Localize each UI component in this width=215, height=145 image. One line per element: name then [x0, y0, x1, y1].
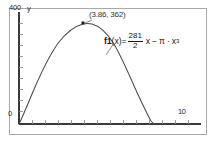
equation-fraction-denominator: 2 [132, 42, 138, 51]
equation-equals-sign: = [122, 36, 127, 46]
function-equation[interactable]: f1 (x) = 281 2 x − π · x 3 [104, 32, 179, 50]
equation-fraction: 281 2 [128, 32, 143, 50]
graph-screenshot: 400 y 0 10 (3.86, 362) f1 (x) = 281 2 x … [0, 0, 215, 145]
equation-pi-symbol: π [159, 36, 165, 46]
y-axis-name-label: y [27, 5, 31, 13]
equation-cubic-exponent: 3 [176, 38, 179, 44]
equation-multiplication-dot: · [167, 36, 170, 46]
maximum-point-marker[interactable] [82, 22, 85, 25]
coordinate-leader-line [85, 20, 92, 23]
origin-label: 0 [8, 110, 12, 118]
equation-linear-term: x [146, 36, 150, 46]
graph-canvas[interactable] [10, 9, 206, 134]
maximum-coordinate-label[interactable]: (3.86, 362) [89, 11, 126, 19]
plot-area[interactable] [10, 9, 206, 134]
y-axis-max-label: 400 [9, 4, 21, 12]
equation-variable: (x) [112, 36, 122, 46]
equation-fraction-numerator: 281 [128, 32, 143, 41]
equation-function-name: f1 [104, 36, 112, 46]
equation-minus-sign: − [152, 36, 157, 46]
x-axis-max-label: 10 [178, 108, 186, 116]
